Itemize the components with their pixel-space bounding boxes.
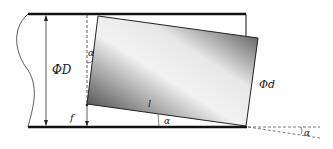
tilted-cylinder-in-pipe-diagram: ΦD Φd l α α α f	[0, 0, 333, 149]
label-part-diameter: Φd	[259, 78, 275, 91]
tilted-cylinder	[87, 16, 258, 126]
arrow-down-icon	[85, 121, 89, 126]
label-angle-right: α	[304, 128, 310, 138]
label-angle-left: α	[88, 48, 94, 58]
label-pipe-diameter: ΦD	[52, 63, 72, 77]
label-length: l	[148, 98, 151, 109]
label-angle-bottom: α	[164, 116, 170, 126]
arrow-down-icon	[44, 120, 48, 126]
label-offset: f	[69, 112, 76, 123]
arrow-up-icon	[44, 15, 48, 21]
break-line	[17, 14, 35, 127]
